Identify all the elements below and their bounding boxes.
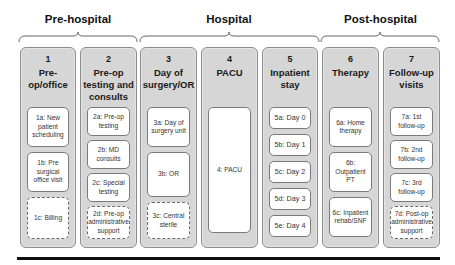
step-box-1b: 1b: Pre surgical office visit: [27, 152, 69, 192]
step-box-7d: 7d: Post-op administrative support: [390, 206, 433, 239]
step-box-5e: 5e: Day 4: [269, 215, 311, 237]
column-header: 2 Pre-op testing and consults: [81, 53, 136, 103]
phase-label-post-hospital: Post-hospital: [322, 13, 439, 25]
column-title: Pre-op/office: [28, 67, 68, 90]
step-box-7c: 7c: 3rd follow-up: [390, 173, 433, 202]
step-box-3c: 3c: Central sterile: [147, 202, 190, 239]
column-header: 1 Pre-op/office: [21, 53, 75, 91]
column-pre-op-office: 1 Pre-op/office 1a: New patient scheduli…: [20, 47, 76, 248]
column-title: PACU: [216, 67, 242, 78]
column-title: Therapy: [332, 67, 369, 78]
step-box-7a: 7a: 1st follow-up: [390, 107, 433, 136]
column-number: 1: [21, 53, 75, 65]
step-box-5d: 5d: Day 3: [269, 188, 311, 210]
brace-hospital: [139, 31, 320, 43]
step-box-7b: 7b: 2nd follow-up: [390, 140, 433, 169]
column-header: 7 Follow-up visits: [384, 53, 439, 91]
column-day-of-surgery: 3 Day of surgery/OR 3a: Day of surgery u…: [140, 47, 197, 248]
column-number: 4: [202, 53, 257, 65]
column-number: 7: [384, 53, 439, 65]
step-box-6b: 6b: Outpatient PT: [329, 152, 372, 192]
step-box-2a: 2a: Pre-op testing: [87, 107, 130, 136]
step-box-5b: 5b: Day 1: [269, 134, 311, 156]
column-inpatient-stay: 5 Inpatient stay 5a: Day 0 5b: Day 1 5c:…: [262, 47, 318, 248]
column-pre-op-testing: 2 Pre-op testing and consults 2a: Pre-op…: [80, 47, 137, 248]
column-title: Follow-up visits: [389, 67, 434, 90]
step-box-5c: 5c: Day 2: [269, 161, 311, 183]
step-box-1c: 1c: Billing: [27, 197, 69, 239]
column-title: Pre-op testing and consults: [83, 67, 134, 102]
column-title: Inpatient stay: [270, 67, 310, 90]
column-number: 5: [263, 53, 317, 65]
column-therapy: 6 Therapy 6a: Home therapy 6b: Outpatien…: [322, 47, 379, 248]
column-title: Day of surgery/OR: [143, 67, 195, 90]
column-follow-up-visits: 7 Follow-up visits 7a: 1st follow-up 7b:…: [383, 47, 440, 248]
column-number: 3: [141, 53, 196, 65]
step-box-3b: 3b: OR: [147, 152, 190, 197]
brace-pre-hospital: [18, 31, 138, 43]
bottom-rule: [17, 257, 440, 260]
column-header: 4 PACU: [202, 53, 257, 79]
column-number: 2: [81, 53, 136, 65]
step-box-2b: 2b: MD consults: [87, 140, 130, 169]
step-box-2d: 2d: Pre-op administrative support: [87, 206, 130, 239]
column-number: 6: [323, 53, 378, 65]
step-box-1a: 1a: New patient scheduling: [27, 107, 69, 147]
step-box-3a: 3a: Day of surgery unit: [147, 107, 190, 147]
step-box-6a: 6a: Home therapy: [329, 107, 372, 147]
column-header: 3 Day of surgery/OR: [141, 53, 196, 91]
phase-label-hospital: Hospital: [140, 13, 318, 25]
brace-post-hospital: [320, 31, 440, 43]
column-header: 6 Therapy: [323, 53, 378, 79]
phase-label-pre-hospital: Pre-hospital: [20, 13, 136, 25]
column-header: 5 Inpatient stay: [263, 53, 317, 91]
step-box-6c: 6c: Inpatient rehab/SNF: [329, 197, 372, 237]
step-box-2c: 2c: Special testing: [87, 173, 130, 202]
column-pacu: 4 PACU 4: PACU: [201, 47, 258, 248]
step-box-5a: 5a: Day 0: [269, 107, 311, 129]
step-box-4: 4: PACU: [208, 107, 251, 233]
